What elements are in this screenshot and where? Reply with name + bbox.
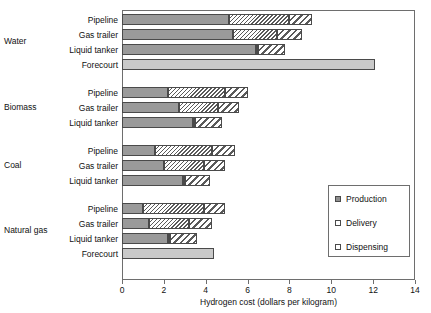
legend-swatch-production-icon — [335, 196, 341, 202]
bar-segment-dispensing — [212, 145, 235, 156]
x-axis-tick-label: 2 — [149, 285, 179, 295]
hydrogen-cost-chart: PipelineGas trailerLiquid tankerForecour… — [0, 0, 431, 313]
x-axis-tick-label: 8 — [274, 285, 304, 295]
bar-segment-production — [122, 87, 168, 98]
bar-segment-delivery — [233, 29, 277, 40]
bar-segment-dispensing — [195, 117, 222, 128]
bar-segment-delivery — [143, 203, 204, 214]
bar-segment-dispensing — [225, 87, 248, 98]
bar-segment-dispensing — [277, 29, 302, 40]
bar-segment-production — [122, 203, 143, 214]
bar-segment-delivery — [149, 218, 189, 229]
bar-segment-delivery — [164, 160, 204, 171]
cropped-header-artifact — [0, 0, 431, 6]
bar-segment-production — [122, 175, 183, 186]
x-axis-tick-label: 12 — [358, 285, 388, 295]
x-axis-tick-label: 4 — [191, 285, 221, 295]
bar-segment-delivery — [168, 87, 225, 98]
bar-segment-delivery — [229, 14, 290, 25]
legend-swatch-delivery-icon — [335, 220, 341, 226]
x-axis-tick — [289, 280, 290, 284]
bar-row — [0, 87, 431, 98]
legend-item-delivery[interactable]: Delivery — [335, 218, 377, 228]
legend-label-dispensing: Dispensing — [346, 243, 388, 252]
x-axis-title: Hydrogen cost (dollars per kilogram) — [122, 297, 415, 307]
bar-segment-dispensing — [218, 102, 239, 113]
bar-segment-combined — [122, 248, 214, 259]
group-label: Coal — [4, 160, 82, 170]
bar-segment-production — [122, 160, 164, 171]
x-axis-tick — [164, 280, 165, 284]
x-axis-tick — [373, 280, 374, 284]
bar-segment-production — [122, 14, 229, 25]
bar-segment-delivery — [155, 145, 212, 156]
legend-label-delivery: Delivery — [346, 219, 377, 228]
bar-row — [0, 145, 431, 156]
x-axis-tick — [206, 280, 207, 284]
x-axis-tick-label: 6 — [233, 285, 263, 295]
bar-segment-dispensing — [204, 160, 225, 171]
bar-segment-delivery — [179, 102, 219, 113]
bar-segment-dispensing — [170, 233, 197, 244]
x-axis-tick-label: 0 — [107, 285, 137, 295]
bar-segment-production — [122, 233, 168, 244]
bar-segment-combined — [122, 59, 375, 70]
bar-segment-dispensing — [289, 14, 312, 25]
x-axis-tick — [415, 280, 416, 284]
group-label: Biomass — [4, 102, 82, 112]
legend-swatch-dispensing-icon — [335, 244, 341, 250]
bar-row — [0, 59, 431, 70]
bar-segment-production — [122, 145, 155, 156]
x-axis-tick — [248, 280, 249, 284]
legend-item-dispensing[interactable]: Dispensing — [335, 242, 388, 252]
bar-segment-production — [122, 44, 256, 55]
bar-segment-dispensing — [258, 44, 285, 55]
x-axis-tick-label: 10 — [316, 285, 346, 295]
bar-segment-dispensing — [189, 218, 212, 229]
bar-row — [0, 14, 431, 25]
legend-item-production[interactable]: Production — [335, 194, 387, 204]
bar-segment-dispensing — [204, 203, 225, 214]
bar-segment-production — [122, 102, 179, 113]
bar-row — [0, 117, 431, 128]
legend: Production Delivery Dispensing — [328, 185, 410, 257]
group-label: Water — [4, 36, 82, 46]
bar-segment-production — [122, 29, 233, 40]
legend-label-production: Production — [346, 195, 387, 204]
bar-segment-production — [122, 218, 149, 229]
x-axis-tick — [122, 280, 123, 284]
x-axis-tick — [331, 280, 332, 284]
x-axis-tick-label: 14 — [400, 285, 430, 295]
group-label: Natural gas — [4, 225, 82, 235]
bar-segment-dispensing — [185, 175, 210, 186]
bar-segment-production — [122, 117, 193, 128]
